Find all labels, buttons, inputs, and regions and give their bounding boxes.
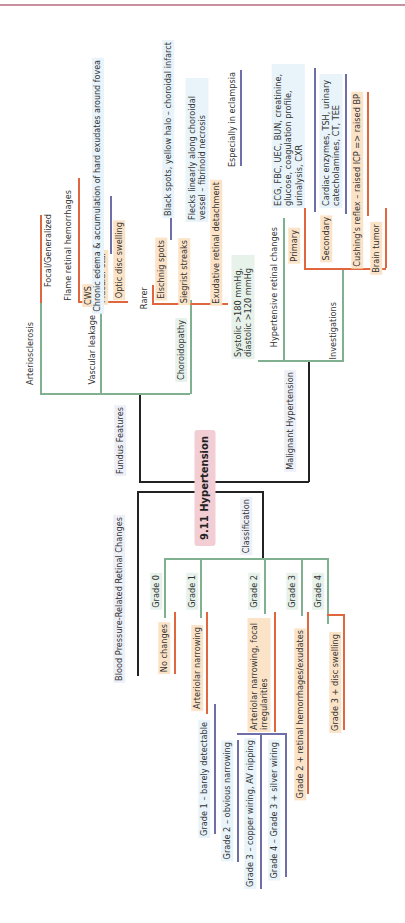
node-exudative-detachment: Exudative retinal detachment <box>210 180 222 306</box>
node-optic-disc-swelling: Optic disc swelling <box>113 220 125 300</box>
bp-grade-2: Grade 2 – obvious narrowing <box>221 740 233 861</box>
connector <box>164 558 328 560</box>
class-desc-4: Grade 3 + disc swelling <box>329 632 341 733</box>
node-arteriosclerosis: Arteriosclerosis <box>24 320 36 387</box>
node-focal-generalized: Focal/Generalized <box>42 212 54 289</box>
connector <box>137 491 139 676</box>
connector <box>240 70 242 166</box>
class-desc-1: Arteriolar narrowing <box>191 625 203 711</box>
bp-grade-1: Grade 1 – barely detectable <box>198 720 210 838</box>
bp-grade-4: Grade 4 – Grade 3 + silver wiring <box>268 740 280 881</box>
connector <box>152 285 154 305</box>
note-siegrist: Flecks linearly along choroidal vessel –… <box>186 78 209 222</box>
branch-bp-retinal-changes: Blood Pressure-Related Retinal Changes <box>113 515 125 683</box>
bp-grade-3: Grade 3 – copper wiring, AV nipping <box>244 738 256 889</box>
class-desc-2: Arteriolar narrowing, focal irregulariti… <box>248 618 271 732</box>
connector <box>301 558 303 616</box>
node-hypertensive-retinal-changes: Hypertensive retinal changes <box>268 225 280 349</box>
connector <box>237 733 287 735</box>
note-elschnig: Black spots, yellow halo – choroidal inf… <box>162 40 174 218</box>
node-secondary: Secondary <box>320 215 332 262</box>
connector <box>200 558 202 618</box>
connector <box>139 395 141 483</box>
note-macular-star: Chronic edema & accumulation of hard exu… <box>92 58 104 314</box>
node-vascular-leakage: Vascular leakage <box>86 313 98 386</box>
connector <box>100 300 102 394</box>
connector <box>139 481 309 483</box>
connector <box>274 612 276 732</box>
node-bp-criteria: Systolic >180 mmHg, diastolic >120 mmHg <box>232 255 255 359</box>
connector <box>367 92 369 216</box>
connector <box>314 68 316 212</box>
connector <box>307 612 309 794</box>
branch-malignant-hypertension: Malignant Hypertension <box>284 370 296 472</box>
connector <box>304 208 306 270</box>
note-exudative: Especially in eclampsia <box>226 70 238 169</box>
connector <box>260 735 262 889</box>
connector <box>190 300 192 394</box>
node-elschnig-spots: Elschnig spots <box>155 238 167 301</box>
branch-classification: Classification <box>240 497 252 555</box>
connector <box>342 268 344 362</box>
connector <box>237 740 239 862</box>
note-primary: ECG, FBC, UEC, BUN, creatinine, glucose,… <box>272 64 305 208</box>
class-desc-3: Grade 2 + retinal hemorrhages/exudates <box>294 628 306 800</box>
connector <box>262 491 264 559</box>
connector <box>214 704 216 834</box>
node-flame-hemorrhages: Flame retinal hemorrhages <box>62 188 74 303</box>
class-grade-1: Grade 1 <box>186 573 198 610</box>
connector <box>264 558 266 614</box>
node-choroidopathy: Choroidopathy <box>175 318 187 382</box>
connector <box>285 735 287 877</box>
connector <box>40 290 42 394</box>
node-investigations: Investigations <box>327 300 339 361</box>
node-primary: Primary <box>288 228 300 264</box>
connector <box>174 612 176 674</box>
connector <box>40 393 190 395</box>
connector <box>206 612 208 714</box>
node-rarer: Rarer <box>138 285 150 311</box>
connector <box>343 614 345 730</box>
class-desc-0: No changes <box>158 622 170 674</box>
connector <box>345 74 347 214</box>
connector <box>110 196 112 254</box>
branch-fundus-features: Fundus Features <box>114 405 126 476</box>
connector <box>385 208 387 268</box>
class-grade-3: Grade 3 <box>286 573 298 610</box>
node-cushing-reflex: Cushing's reflex – raised ICP => raised … <box>351 92 363 269</box>
connector <box>78 178 80 302</box>
connector <box>308 362 310 482</box>
connector <box>283 218 285 362</box>
central-topic: 9.11 Hypertension <box>195 430 216 546</box>
node-brain-tumor: Brain tumor <box>370 222 382 275</box>
node-siegrist-streaks: Siegrist streaks <box>178 238 190 305</box>
class-grade-4: Grade 4 <box>312 573 324 610</box>
top-border <box>0 4 405 6</box>
connector <box>327 614 345 616</box>
note-secondary: Cardiac enzymes, TSH, urinary catecholam… <box>320 74 343 208</box>
class-grade-2: Grade 2 <box>248 573 260 610</box>
connector <box>164 558 166 618</box>
class-grade-0: Grade 0 <box>150 573 162 610</box>
